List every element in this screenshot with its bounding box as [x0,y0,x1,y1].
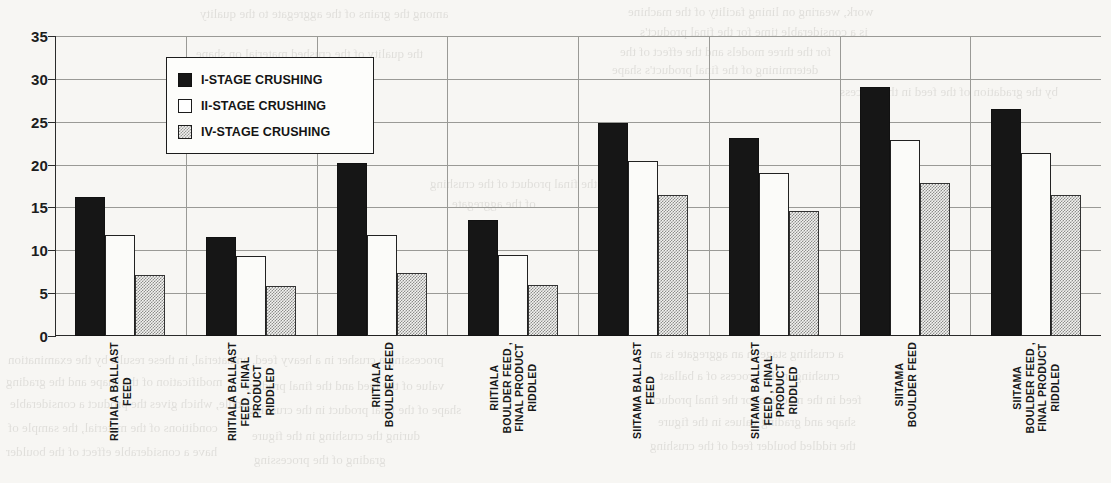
bar-series-3 [658,195,688,336]
x-label-cell: RIITIALA BALLAST FEED [55,340,186,482]
x-label-cell: RIITIALA BALLAST FEED , FINAL PRODUCT RI… [186,340,317,482]
bar-series-2 [367,235,397,336]
bar-series-2 [105,235,135,336]
bar-group [840,36,971,336]
bar-group [447,36,578,336]
bar-series-1 [598,123,628,336]
legend-item-ii-stage: II-STAGE CRUSHING [178,93,363,119]
legend-swatch-iv-stage [178,125,192,139]
bar-series-1 [75,197,105,336]
y-axis-tick [48,336,56,337]
y-axis-tick-label: 10 [8,242,48,259]
bar-series-1 [991,109,1021,336]
x-axis-category-label: SIITAMA BOULDER FEED [892,342,917,427]
bar-series-2 [628,161,658,336]
y-axis-tick-label: 5 [8,285,48,302]
y-axis-tick-label: 35 [8,28,48,45]
bar-series-3 [266,286,296,336]
bar-series-3 [528,285,558,336]
bar-series-3 [789,211,819,336]
y-axis-tick-label: 0 [8,328,48,345]
bar-series-3 [135,275,165,336]
y-axis-tick-label: 25 [8,113,48,130]
bar-series-3 [397,273,427,336]
legend-label-ii-stage: II-STAGE CRUSHING [201,99,326,113]
x-label-cell: SIITAMA BALLAST FEED , FINAL PRODUCT RID… [709,340,840,482]
bar-group [709,36,840,336]
legend-label-iv-stage: IV-STAGE CRUSHING [201,125,330,139]
x-axis-category-label: SIITAMA BALLAST FEED , FINAL PRODUCT RID… [749,342,799,439]
x-label-cell: SIITAMA BOULDER FEED , FINAL PRODUCT RID… [970,340,1101,482]
x-axis-category-label: SIITAMA BOULDER FEED , FINAL PRODUCT RID… [1011,342,1061,433]
x-label-cell: RIITIALA BOULDER FEED [317,340,448,482]
x-axis-category-label: RIITIALA BALLAST FEED [108,342,133,441]
x-axis-category-label: RIITIALA BOULDER FEED , FINAL PRODUCT RI… [488,342,538,433]
legend-swatch-i-stage [178,73,192,87]
bar-series-1 [468,220,498,336]
legend-swatch-ii-stage [178,99,192,113]
legend-item-i-stage: I-STAGE CRUSHING [178,67,363,93]
bar-group [578,36,709,336]
legend-item-iv-stage: IV-STAGE CRUSHING [178,119,363,145]
bar-series-3 [920,183,950,336]
y-axis-tick-label: 30 [8,70,48,87]
x-axis-category-label: SIITAMA BALLAST FEED [631,342,656,439]
x-axis-category-label: RIITIALA BOULDER FEED [369,342,394,427]
bar-series-1 [337,163,367,336]
bar-series-2 [1021,153,1051,336]
chart-legend: I-STAGE CRUSHING II-STAGE CRUSHING IV-ST… [166,57,374,154]
x-label-cell: SIITAMA BOULDER FEED [840,340,971,482]
x-axis-category-labels: RIITIALA BALLAST FEEDRIITIALA BALLAST FE… [55,340,1101,482]
legend-label-i-stage: I-STAGE CRUSHING [201,73,323,87]
bar-series-1 [729,138,759,336]
bar-series-3 [1051,195,1081,336]
x-axis-category-label: RIITIALA BALLAST FEED , FINAL PRODUCT RI… [226,342,276,441]
bar-series-2 [759,173,789,336]
bar-series-1 [860,87,890,336]
x-label-cell: RIITIALA BOULDER FEED , FINAL PRODUCT RI… [447,340,578,482]
bar-chart: 05101520253035 I-STAGE CRUSHING II-STAGE… [0,0,1111,483]
bar-series-2 [236,256,266,336]
bar-group [970,36,1101,336]
y-axis-tick-label: 15 [8,199,48,216]
y-axis-tick-label: 20 [8,156,48,173]
bar-series-1 [206,237,236,336]
x-label-cell: SIITAMA BALLAST FEED [578,340,709,482]
bar-series-2 [890,140,920,336]
bar-series-2 [498,255,528,336]
